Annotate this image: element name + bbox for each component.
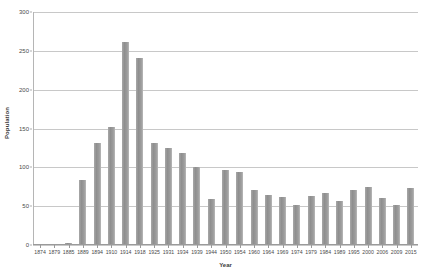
y-tick-mark bbox=[30, 50, 32, 51]
x-axis-tick-labels: 1874187918851889189419101914191819251931… bbox=[33, 249, 418, 259]
bars-layer bbox=[33, 12, 418, 245]
bar bbox=[222, 170, 229, 245]
x-tick-label: 1969 bbox=[277, 249, 289, 255]
x-tick-mark bbox=[226, 245, 227, 248]
x-tick-label: 2000 bbox=[362, 249, 374, 255]
y-tick-label: 100 bbox=[19, 164, 29, 170]
bar bbox=[136, 58, 143, 245]
x-tick-mark bbox=[397, 245, 398, 248]
x-tick-label: 1984 bbox=[320, 249, 332, 255]
x-tick-label: 1974 bbox=[291, 249, 303, 255]
bar bbox=[179, 153, 186, 245]
x-tick-mark bbox=[197, 245, 198, 248]
bar bbox=[94, 143, 101, 245]
bar bbox=[322, 193, 329, 245]
x-tick-label: 1960 bbox=[248, 249, 260, 255]
bar bbox=[151, 143, 158, 245]
bar bbox=[379, 198, 386, 245]
y-tick-label: 50 bbox=[22, 203, 29, 209]
x-tick-mark bbox=[268, 245, 269, 248]
x-tick-mark bbox=[240, 245, 241, 248]
x-tick-mark bbox=[340, 245, 341, 248]
x-tick-label: 1910 bbox=[106, 249, 118, 255]
x-tick-mark bbox=[297, 245, 298, 248]
bar bbox=[279, 197, 286, 245]
x-tick-mark bbox=[154, 245, 155, 248]
bar bbox=[193, 167, 200, 245]
x-tick-mark bbox=[40, 245, 41, 248]
x-tick-mark bbox=[69, 245, 70, 248]
y-axis-tick-labels: 050100150200250300 bbox=[14, 0, 32, 250]
x-tick-mark bbox=[211, 245, 212, 248]
x-tick-mark bbox=[97, 245, 98, 248]
x-tick-label: 1950 bbox=[220, 249, 232, 255]
plot-area bbox=[33, 12, 418, 245]
x-tick-mark bbox=[283, 245, 284, 248]
x-tick-label: 1964 bbox=[262, 249, 274, 255]
y-tick-mark bbox=[30, 89, 32, 90]
x-tick-label: 1995 bbox=[348, 249, 360, 255]
x-tick-label: 1944 bbox=[205, 249, 217, 255]
population-by-year-bar-chart: Population 050100150200250300 1874187918… bbox=[0, 0, 423, 277]
bar bbox=[350, 190, 357, 245]
bar bbox=[336, 201, 343, 245]
y-tick-mark bbox=[30, 167, 32, 168]
x-tick-label: 2006 bbox=[377, 249, 389, 255]
y-tick-mark bbox=[30, 128, 32, 129]
x-tick-mark bbox=[140, 245, 141, 248]
x-tick-label: 2009 bbox=[391, 249, 403, 255]
bar bbox=[208, 199, 215, 245]
bar bbox=[165, 148, 172, 245]
bar bbox=[293, 205, 300, 245]
x-tick-mark bbox=[111, 245, 112, 248]
x-tick-label: 1914 bbox=[120, 249, 132, 255]
x-tick-label: 1889 bbox=[77, 249, 89, 255]
x-tick-mark bbox=[126, 245, 127, 248]
x-tick-mark bbox=[311, 245, 312, 248]
bar bbox=[251, 190, 258, 245]
x-tick-label: 1979 bbox=[305, 249, 317, 255]
x-tick-mark bbox=[83, 245, 84, 248]
y-axis-title-label: Population bbox=[4, 107, 10, 139]
bar bbox=[265, 195, 272, 245]
y-axis-title: Population bbox=[0, 0, 14, 245]
y-tick-label: 250 bbox=[19, 48, 29, 54]
x-tick-mark bbox=[168, 245, 169, 248]
bar bbox=[79, 180, 86, 245]
x-axis-title: Year bbox=[33, 262, 418, 268]
y-tick-label: 150 bbox=[19, 126, 29, 132]
bar bbox=[122, 42, 129, 245]
x-tick-label: 1931 bbox=[163, 249, 175, 255]
x-tick-label: 1918 bbox=[134, 249, 146, 255]
x-tick-label: 2015 bbox=[405, 249, 417, 255]
y-tick-mark bbox=[30, 12, 32, 13]
bar bbox=[393, 205, 400, 245]
x-tick-label: 1989 bbox=[334, 249, 346, 255]
x-tick-label: 1894 bbox=[91, 249, 103, 255]
y-tick-mark bbox=[30, 245, 32, 246]
x-tick-label: 1954 bbox=[234, 249, 246, 255]
y-tick-mark bbox=[30, 206, 32, 207]
x-tick-label: 1879 bbox=[49, 249, 61, 255]
x-tick-label: 1939 bbox=[191, 249, 203, 255]
x-tick-label: 1874 bbox=[34, 249, 46, 255]
y-tick-label: 0 bbox=[26, 242, 29, 248]
bar bbox=[236, 172, 243, 245]
x-tick-mark bbox=[325, 245, 326, 248]
x-tick-label: 1925 bbox=[148, 249, 160, 255]
x-tick-mark bbox=[54, 245, 55, 248]
bar bbox=[308, 196, 315, 245]
x-tick-mark bbox=[354, 245, 355, 248]
bar bbox=[407, 188, 414, 245]
x-tick-mark bbox=[382, 245, 383, 248]
bar bbox=[365, 187, 372, 245]
y-tick-label: 300 bbox=[19, 9, 29, 15]
x-tick-mark bbox=[368, 245, 369, 248]
x-tick-label: 1934 bbox=[177, 249, 189, 255]
y-tick-label: 200 bbox=[19, 87, 29, 93]
x-tick-label: 1885 bbox=[63, 249, 75, 255]
x-tick-mark bbox=[411, 245, 412, 248]
x-tick-mark bbox=[254, 245, 255, 248]
x-tick-mark bbox=[183, 245, 184, 248]
bar bbox=[108, 127, 115, 245]
